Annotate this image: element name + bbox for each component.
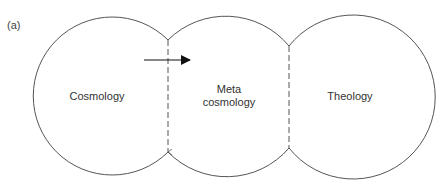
meta-cosmology-circle-top bbox=[168, 16, 289, 46]
meta-cosmology-circle-bottom bbox=[168, 148, 289, 177]
meta-cosmology-label-line1: Meta bbox=[198, 83, 260, 96]
panel-label: (a) bbox=[7, 19, 20, 31]
meta-cosmology-label-line2: cosmology bbox=[198, 96, 260, 109]
theology-label: Theology bbox=[322, 90, 378, 103]
cosmology-label: Cosmology bbox=[65, 90, 129, 103]
meta-cosmology-label: Meta cosmology bbox=[198, 83, 260, 109]
